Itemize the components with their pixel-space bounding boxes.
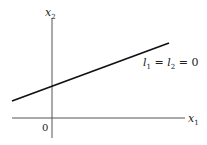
diagram-canvas: x2 x1 0 l1 = l2 = 0 <box>0 0 207 145</box>
line-l1-l2-zero <box>12 43 169 101</box>
line-label: l1 = l2 = 0 <box>143 56 198 71</box>
origin-label: 0 <box>42 122 48 133</box>
x2-axis-label: x2 <box>45 6 56 21</box>
x1-axis-label: x1 <box>188 112 199 127</box>
